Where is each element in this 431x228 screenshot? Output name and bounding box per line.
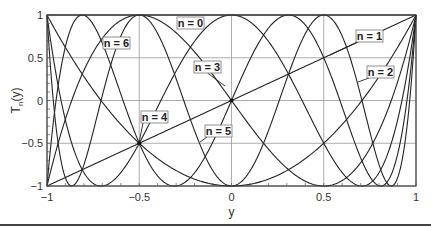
label-text: n = 3: [195, 61, 220, 73]
y-axis-label-text: Tn(y): [9, 88, 25, 114]
leader-line: [208, 73, 226, 86]
leader-line: [358, 78, 369, 82]
x-tick-label: −0.5: [128, 191, 150, 203]
chebyshev-chart: −1−0.500.51−1−0.500.51 n = 0n = 1n = 2n …: [0, 0, 431, 228]
curve-label-n1: n = 1: [330, 30, 383, 55]
label-text: n = 4: [142, 111, 168, 123]
curve-label-n6: n = 6: [103, 37, 130, 49]
intersection-dot: [230, 99, 234, 103]
label-text: n = 5: [206, 125, 231, 137]
x-tick-label: 1: [413, 191, 419, 203]
curve-label-n3: n = 3: [194, 61, 225, 86]
curve-label-n0: n = 0: [177, 17, 204, 29]
x-tick-label: 0: [228, 191, 234, 203]
label-text: n = 2: [368, 66, 393, 78]
y-axis-label: Tn(y): [9, 88, 25, 114]
x-tick-label: −1: [41, 191, 54, 203]
bottom-rule: [0, 224, 431, 226]
y-tick-label: −1: [30, 180, 43, 192]
label-text: n = 1: [357, 30, 382, 42]
x-tick-label: 0.5: [316, 191, 331, 203]
label-text: n = 6: [104, 37, 129, 49]
y-tick-label: 1: [37, 9, 43, 21]
curve-label-n4: n = 4: [139, 111, 168, 143]
y-tick-label: 0.5: [28, 52, 43, 64]
curve-label-n5: n = 5: [200, 125, 232, 142]
label-text: n = 0: [178, 17, 203, 29]
leader-line: [200, 137, 207, 142]
leader-line: [330, 42, 358, 55]
y-tick-label: 0: [37, 95, 43, 107]
x-axis-label: y: [229, 205, 235, 219]
curve-label-n2: n = 2: [358, 66, 394, 82]
y-tick-label: −0.5: [21, 137, 43, 149]
